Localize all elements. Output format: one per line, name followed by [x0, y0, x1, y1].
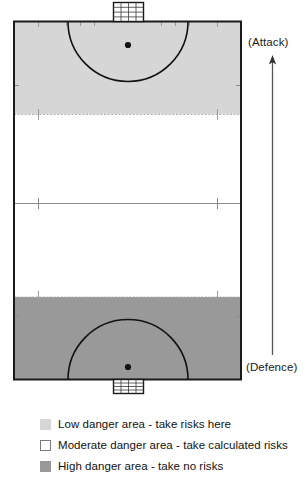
penalty-spot-bottom [125, 364, 131, 370]
goal-bottom [114, 380, 144, 394]
attack-direction-label: (Attack) [248, 36, 288, 48]
goal-top [114, 3, 144, 22]
legend-label-low-danger: Low danger area - take risks here [58, 418, 231, 431]
legend-swatch-moderate-danger [40, 440, 51, 451]
legend-label-moderate-danger: Moderate danger area - take calculated r… [58, 439, 288, 452]
legend-item-low-danger: Low danger area - take risks here [0, 414, 306, 435]
pitch-graphic [0, 0, 306, 400]
legend: Low danger area - take risks here Modera… [0, 414, 306, 477]
legend-item-high-danger: High danger area - take no risks [0, 456, 306, 477]
legend-swatch-high-danger [40, 461, 51, 472]
legend-item-moderate-danger: Moderate danger area - take calculated r… [0, 435, 306, 456]
hockey-pitch-diagram: (Attack) (Defence) Low danger area - tak… [0, 0, 306, 481]
direction-of-play-arrow [269, 55, 276, 355]
defence-direction-label: (Defence) [246, 361, 297, 373]
zone-low-danger [14, 22, 241, 115]
zone-moderate-danger [14, 114, 241, 298]
legend-label-high-danger: High danger area - take no risks [58, 460, 223, 473]
legend-swatch-low-danger [40, 419, 51, 430]
penalty-spot-top [125, 42, 131, 48]
